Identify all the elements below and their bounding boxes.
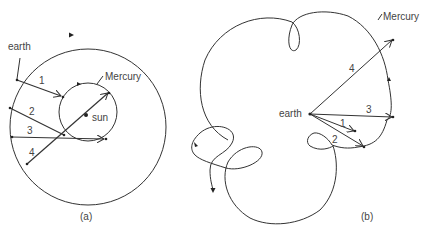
mercury-position-4 <box>108 92 111 95</box>
mercury-position-4 <box>392 39 395 42</box>
earth-orbit-direction-arrow <box>69 33 74 38</box>
sightline-3-label: 3 <box>366 104 372 115</box>
mercury-position-2 <box>63 134 66 137</box>
sightline-3 <box>310 114 392 117</box>
panel-a: sun earth Mercury 1 2 3 4 (a) <box>8 33 166 223</box>
earth-label: earth <box>8 41 31 52</box>
caption-b: (b) <box>361 211 373 222</box>
earth-label: earth <box>279 108 302 119</box>
earth-position-1 <box>16 79 19 82</box>
earth-leader-line <box>17 58 20 79</box>
path-direction-arrow-left <box>194 142 198 147</box>
sightline-2-label: 2 <box>332 134 338 145</box>
mercury-leader-line <box>378 14 382 20</box>
sun-label: sun <box>92 112 108 123</box>
sightline-2 <box>10 108 64 135</box>
diagram: sun earth Mercury 1 2 3 4 (a) Mercury ea… <box>0 0 428 233</box>
mercury-label: Mercury <box>105 71 141 82</box>
caption-a: (a) <box>80 211 92 222</box>
mercury-position-3 <box>105 138 108 141</box>
mercury-leader-line <box>97 76 103 84</box>
mercury-position-2 <box>363 146 366 149</box>
sightline-1 <box>310 114 354 131</box>
sightline-4-label: 4 <box>349 63 355 74</box>
mercury-position-3 <box>392 116 395 119</box>
sightline-3-label: 3 <box>27 125 33 136</box>
sightline-2-label: 2 <box>29 106 35 117</box>
earth-orbit <box>10 49 166 205</box>
sightline-4 <box>27 93 108 164</box>
mercury-position-1 <box>62 96 65 99</box>
mercury-label: Mercury <box>383 11 419 22</box>
earth-dot <box>308 112 311 115</box>
earth-position-2 <box>9 107 12 110</box>
earth-position-3 <box>11 136 14 139</box>
path-end-arrow <box>211 188 216 193</box>
sightline-4 <box>310 40 392 114</box>
panel-b: Mercury earth 3 4 1 2 (b) <box>192 11 419 224</box>
mercury-orbit-direction-arrow <box>77 82 81 86</box>
sightline-1-label: 1 <box>340 118 346 129</box>
sightline-4-label: 4 <box>29 147 35 158</box>
earth-position-4 <box>26 163 29 166</box>
sightline-1-label: 1 <box>39 75 45 86</box>
mercury-orbit <box>59 83 117 141</box>
mercury-position-1 <box>354 130 357 133</box>
